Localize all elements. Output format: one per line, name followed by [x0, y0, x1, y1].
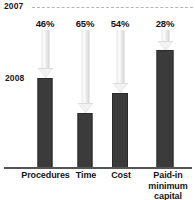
bar-chart: 2007 2008 46% 65% 54% [0, 0, 195, 200]
category-label-line: capital [144, 191, 192, 200]
bar-time [78, 113, 93, 168]
decline-arrow-time [77, 30, 94, 113]
bar-value-label-cost: 54% [111, 18, 129, 29]
bar-procedures [38, 78, 53, 168]
x-axis-category-labels: Procedures Time Cost Paid-in minimum cap… [0, 170, 195, 200]
decline-arrow-procedures [37, 30, 54, 78]
category-label-cost: Cost [105, 170, 137, 181]
category-label-line: Cost [105, 170, 137, 181]
bar-column-cost: 54% [105, 0, 135, 168]
category-label-procedures: Procedures [17, 170, 74, 181]
category-label-line: minimum [144, 181, 192, 192]
category-label-paid-in-minimum-capital: Paid-in minimum capital [144, 170, 192, 200]
bar-column-paid-in-minimum-capital: 28% [149, 0, 181, 168]
x-axis-line [4, 167, 192, 169]
decline-arrow-paid-in-minimum-capital [157, 30, 174, 51]
bar-paid-in-minimum-capital [157, 50, 174, 168]
category-label-line: Paid-in [144, 170, 192, 181]
category-label-line: Time [68, 170, 104, 181]
decline-arrow-cost [112, 30, 129, 93]
bar-column-procedures: 46% [30, 0, 60, 168]
bar-value-label-procedures: 46% [36, 18, 54, 29]
plot-area: 46% 65% 54% 28% [0, 0, 195, 168]
bar-value-label-time: 65% [76, 18, 94, 29]
bar-column-time: 65% [70, 0, 100, 168]
category-label-time: Time [68, 170, 104, 181]
category-label-line: Procedures [17, 170, 74, 181]
bar-value-label-paid-in-minimum-capital: 28% [156, 18, 174, 29]
bar-cost [112, 93, 128, 168]
